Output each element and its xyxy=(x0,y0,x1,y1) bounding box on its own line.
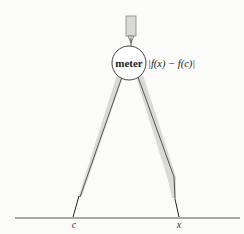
diagram-labels: meter |f(x) − f(c)| c x xyxy=(0,0,244,234)
meter-reading: |f(x) − f(c)| xyxy=(148,58,195,70)
compass-meter-diagram: meter |f(x) − f(c)| c x xyxy=(0,0,244,234)
point-c-label: c xyxy=(72,219,77,230)
meter-label: meter xyxy=(115,57,143,69)
point-x-label: x xyxy=(176,219,182,230)
